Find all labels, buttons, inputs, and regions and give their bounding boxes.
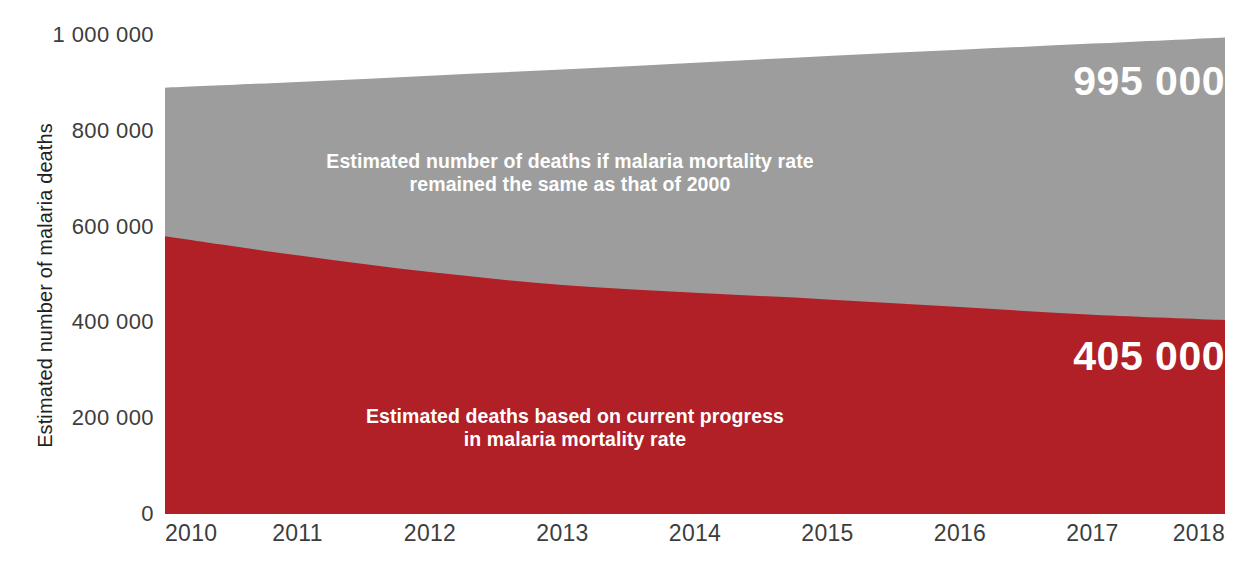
x-tick-label-2013: 2013 (536, 520, 588, 547)
x-tick-label-2010: 2010 (165, 520, 217, 547)
y-tick-label-400000: 400 000 (72, 309, 164, 335)
x-tick-label-2017: 2017 (1066, 520, 1118, 547)
gray-end-value-callout: 995 000 (985, 58, 1225, 105)
red-end-value-callout: 405 000 (985, 333, 1225, 380)
x-tick-label-2014: 2014 (669, 520, 721, 547)
y-tick-label-0: 0 (141, 501, 164, 527)
chart-figure: Estimated number of malaria deaths 1 000… (0, 0, 1246, 571)
x-tick-label-2012: 2012 (404, 520, 456, 547)
x-tick-label-2015: 2015 (801, 520, 853, 547)
x-tick-label-2018: 2018 (1173, 520, 1225, 547)
y-axis-title: Estimated number of malaria deaths (30, 0, 60, 571)
y-tick-label-600000: 600 000 (72, 214, 164, 240)
y-tick-label-1000000: 1 000 000 (53, 22, 164, 48)
red-area-annotation: Estimated deaths based on current progre… (300, 405, 850, 451)
y-tick-label-200000: 200 000 (72, 405, 164, 431)
x-tick-label-2016: 2016 (934, 520, 986, 547)
gray-area-annotation: Estimated number of deaths if malaria mo… (260, 150, 880, 196)
y-tick-label-800000: 800 000 (72, 118, 164, 144)
x-tick-label-2011: 2011 (272, 520, 323, 547)
